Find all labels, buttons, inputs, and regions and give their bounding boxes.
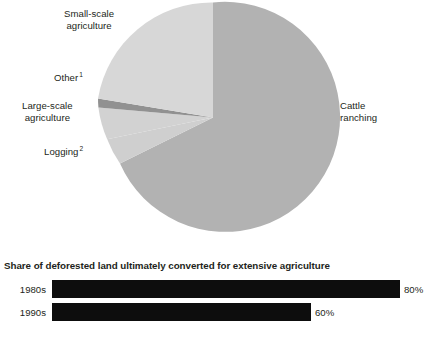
bar-fill-1980s <box>52 280 400 298</box>
pie-label-cattle-line2: ranching <box>340 112 377 123</box>
bar-row: 1980s 80% <box>0 280 428 303</box>
pie-chart: Small-scale agriculture Other1 Large-sca… <box>0 0 428 248</box>
bar-row-label-1990s: 1990s <box>4 307 46 318</box>
pie-label-small-scale-line2: agriculture <box>66 20 111 31</box>
bar-value-1990s: 60% <box>315 307 334 318</box>
bar-track-1990s: 60% <box>52 303 424 321</box>
pie-label-other-footnote-marker: 1 <box>78 71 83 78</box>
pie-label-other: Other1 <box>54 72 83 84</box>
bar-fill-1990s <box>52 303 311 321</box>
bar-chart-title: Share of deforested land ultimately conv… <box>4 260 330 271</box>
pie-label-logging-footnote-marker: 2 <box>79 145 84 152</box>
pie-label-other-line1: Other <box>54 72 78 83</box>
pie-slice-small-scale-agriculture <box>98 2 213 117</box>
bar-row-label-1980s: 1980s <box>4 284 46 295</box>
pie-label-logging: Logging2 <box>44 146 83 158</box>
pie-label-small-scale-agriculture: Small-scale agriculture <box>64 8 114 32</box>
pie-label-large-scale-agriculture: Large-scale agriculture <box>22 100 73 124</box>
bar-chart: Share of deforested land ultimately conv… <box>0 258 428 338</box>
bar-chart-rows: 1980s 80% 1990s 60% <box>0 280 428 326</box>
pie-label-cattle-line1: Cattle <box>340 100 365 111</box>
pie-label-cattle-ranching: Cattle ranching <box>340 100 377 124</box>
bar-row: 1990s 60% <box>0 303 428 326</box>
bar-value-1980s: 80% <box>404 284 423 295</box>
pie-label-large-scale-line1: Large-scale <box>22 100 73 111</box>
bar-track-1980s: 80% <box>52 280 424 298</box>
pie-label-logging-line1: Logging <box>44 146 79 157</box>
footnote-strip-cropped <box>4 352 424 359</box>
deforestation-figure: Small-scale agriculture Other1 Large-sca… <box>0 0 428 361</box>
pie-label-large-scale-line2: agriculture <box>25 112 70 123</box>
pie-label-small-scale-line1: Small-scale <box>64 8 114 19</box>
